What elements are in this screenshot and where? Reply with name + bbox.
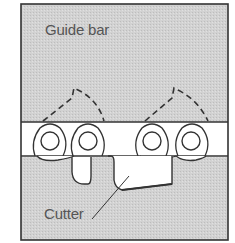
rivet-2: [79, 132, 97, 150]
rivet-1: [41, 132, 59, 150]
rivet-3: [143, 132, 161, 150]
rivet-4: [182, 132, 200, 150]
chainsaw-diagram: [0, 0, 235, 243]
cutter-label: Cutter: [44, 205, 84, 222]
drive-tang: [72, 157, 91, 184]
guide-bar-label: Guide bar: [45, 21, 109, 38]
